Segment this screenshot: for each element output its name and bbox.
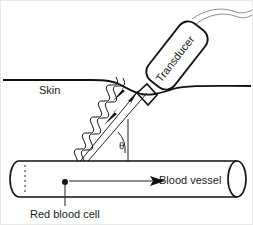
transducer-label: Transducer — [153, 33, 197, 84]
transducer-cable — [192, 9, 252, 24]
transmit-direction-arrowhead-upper — [104, 108, 118, 125]
doppler-ultrasound-diagram: θ — [0, 0, 253, 225]
blood-vessel-label: Blood vessel — [159, 174, 221, 186]
red-blood-cell-label: Red blood cell — [30, 208, 100, 220]
diagram-canvas: θ — [1, 1, 253, 225]
angle-label: θ — [119, 139, 124, 151]
vessel-left-end — [10, 161, 19, 197]
skin-label: Skin — [39, 84, 60, 96]
